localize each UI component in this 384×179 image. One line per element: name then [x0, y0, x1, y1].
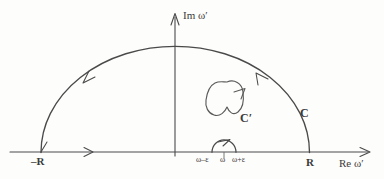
pole-minus-epsilon-label: ω–ε	[196, 156, 209, 164]
pole-omega-label: ω	[220, 156, 225, 164]
imaginary-axis	[171, 14, 179, 157]
inner-closed-contour-C-prime	[206, 81, 244, 115]
imaginary-axis-label: Im ω′	[183, 10, 208, 21]
real-axis	[10, 148, 370, 157]
outer-contour-label: C	[300, 107, 309, 119]
real-axis-label: Re ω′	[339, 158, 364, 169]
right-endpoint-label: R	[306, 157, 314, 168]
figure-canvas	[0, 0, 384, 179]
arrow-arc-upper-left-icon	[83, 71, 95, 83]
left-endpoint-label: –R	[31, 156, 44, 167]
inner-contour-label: C′	[240, 112, 252, 124]
pole-plus-epsilon-label: ω+ε	[232, 156, 245, 164]
contour-integration-figure: Im ω′ Re ω′ –R R C C′ ω–ε ω ω+ε	[0, 0, 384, 179]
